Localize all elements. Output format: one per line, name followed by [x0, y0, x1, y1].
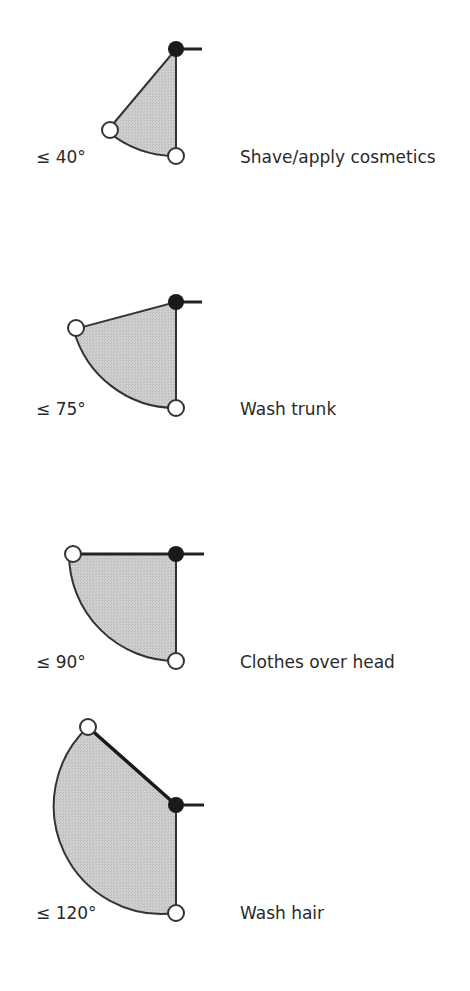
start-joint-icon — [168, 905, 184, 921]
start-joint-icon — [168, 653, 184, 669]
sector-40 — [107, 49, 176, 156]
angle-label-75: ≤ 75° — [36, 399, 86, 419]
arc-diagram-75 — [68, 294, 202, 416]
angle-label-40: ≤ 40° — [36, 147, 86, 167]
angle-label-90: ≤ 90° — [36, 652, 86, 672]
activity-label-wash-hair: Wash hair — [240, 903, 324, 923]
arc-diagram-90 — [65, 546, 204, 669]
start-joint-icon — [168, 400, 184, 416]
pivot-joint-icon — [168, 546, 184, 562]
pivot-joint-icon — [168, 41, 184, 57]
arc-diagram-120 — [54, 719, 204, 921]
activity-label-clothes: Clothes over head — [240, 652, 395, 672]
end-joint-icon — [80, 719, 96, 735]
pivot-joint-icon — [168, 294, 184, 310]
sector-90 — [69, 554, 176, 661]
end-joint-icon — [102, 122, 118, 138]
angle-label-120: ≤ 120° — [36, 903, 97, 923]
start-joint-icon — [168, 148, 184, 164]
activity-label-wash-trunk: Wash trunk — [240, 399, 336, 419]
pivot-joint-icon — [168, 797, 184, 813]
end-joint-icon — [65, 546, 81, 562]
sector-75 — [74, 302, 176, 408]
arc-diagram-40 — [102, 41, 202, 164]
activity-label-shave: Shave/apply cosmetics — [240, 147, 436, 167]
end-joint-icon — [68, 320, 84, 336]
